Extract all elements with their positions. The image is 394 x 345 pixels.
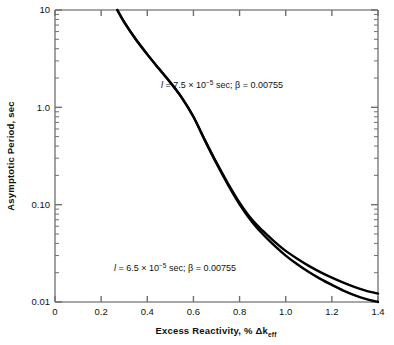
x-tick-label-5: 1.0 — [279, 306, 292, 317]
x-tick-label-7: 1.4 — [371, 306, 384, 317]
y-tick-label-3: 10 — [39, 4, 50, 15]
chart-figure: 0.010.101.010 00.20.40.60.81.01.21.4 l =… — [0, 0, 394, 345]
x-axis-title-sub: eff — [268, 331, 277, 338]
x-axis-title-main: Excess Reactivity, % Δk — [155, 325, 268, 336]
annotation-lower-body: = 6.5 × 10 — [116, 263, 159, 273]
x-tick-label-0: 0 — [52, 306, 57, 317]
annotation-upper-tail: sec; β = 0.00755 — [213, 80, 282, 90]
x-tick-label-2: 0.4 — [141, 306, 154, 317]
y-axis-title: Asymptotic Period, sec — [5, 101, 16, 210]
annotation-upper-body: = 7.5 × 10 — [163, 80, 206, 90]
x-tick-label-6: 1.2 — [325, 306, 338, 317]
x-axis-title: Excess Reactivity, % Δkeff — [155, 325, 277, 338]
x-tick-label-1: 0.2 — [95, 306, 108, 317]
y-tick-label-0: 0.01 — [32, 296, 51, 307]
x-tick-label-3: 0.6 — [187, 306, 200, 317]
asymptotic-period-chart: 0.010.101.010 00.20.40.60.81.01.21.4 l =… — [0, 0, 394, 345]
y-tick-label-2: 1.0 — [37, 102, 50, 113]
annotation-upper: l = 7.5 × 10−5 sec; β = 0.00755 — [161, 79, 283, 91]
x-tick-label-4: 0.8 — [233, 306, 246, 317]
annotation-lower-tail: sec; β = 0.00755 — [166, 263, 235, 273]
y-tick-label-1: 0.10 — [32, 199, 51, 210]
chart-background — [0, 0, 394, 345]
annotation-lower: l = 6.5 × 10−5 sec; β = 0.00755 — [114, 262, 236, 274]
